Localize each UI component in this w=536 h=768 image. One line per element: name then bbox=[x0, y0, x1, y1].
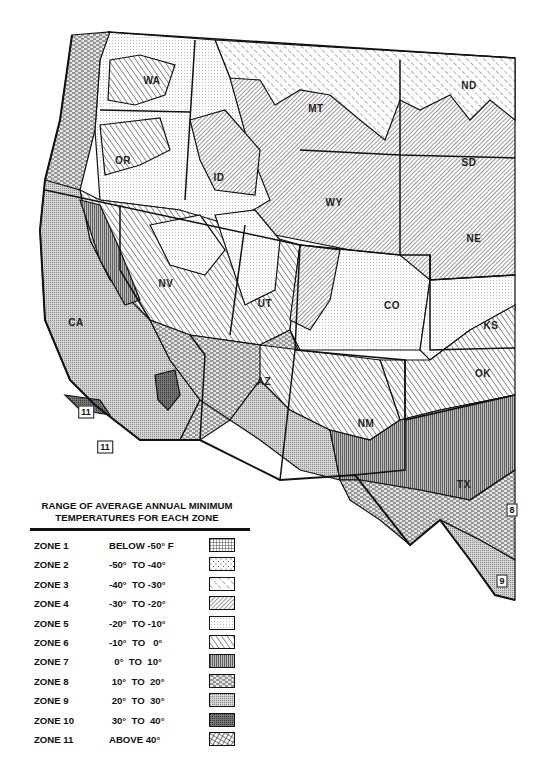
state-label-ok: OK bbox=[475, 368, 491, 379]
legend-row-zone-4: ZONE 4 -30° TO -20° bbox=[22, 595, 252, 614]
legend-row-zone-7: ZONE 7 0° TO 10° bbox=[22, 653, 252, 672]
zone-marker-8-texas: 8 bbox=[506, 504, 517, 517]
legend-zone-label: ZONE 8 bbox=[34, 676, 69, 687]
state-label-ks: KS bbox=[484, 320, 499, 331]
legend-row-zone-11: ZONE 11 ABOVE 40° bbox=[22, 731, 252, 750]
state-label-or: OR bbox=[115, 155, 131, 166]
legend-title-line1: RANGE OF AVERAGE ANNUAL MINIMUM bbox=[22, 500, 252, 512]
legend-zone-label: ZONE 3 bbox=[34, 579, 69, 590]
state-label-tx: TX bbox=[457, 479, 471, 490]
dense-crosshatch-swatch-icon bbox=[209, 713, 235, 727]
state-label-sd: SD bbox=[462, 157, 477, 168]
state-label-nm: NM bbox=[358, 418, 375, 429]
legend-row-zone-3: ZONE 3 -40° TO -30° bbox=[22, 576, 252, 595]
legend-row-zone-2: ZONE 2 -50° TO -40° bbox=[22, 556, 252, 575]
legend-row-zone-9: ZONE 9 20° TO 30° bbox=[22, 692, 252, 711]
legend-row-zone-8: ZONE 8 10° TO 20° bbox=[22, 673, 252, 692]
state-label-mt: MT bbox=[308, 103, 323, 114]
legend-row-zone-6: ZONE 6 -10° TO 0° bbox=[22, 634, 252, 653]
state-label-az: AZ bbox=[257, 376, 271, 387]
legend-zone-range: -30° TO -20° bbox=[109, 598, 166, 609]
legend-zone-label: ZONE 7 bbox=[34, 656, 69, 667]
dense-diagonal-swatch-icon bbox=[209, 596, 235, 610]
legend-zone-label: ZONE 9 bbox=[34, 695, 69, 706]
state-label-co: CO bbox=[384, 300, 400, 311]
legend-zone-range: 10° TO 20° bbox=[109, 676, 165, 687]
legend-zone-range: ABOVE 40° bbox=[109, 734, 160, 745]
legend-zone-label: ZONE 11 bbox=[34, 734, 73, 745]
legend-row-zone-1: ZONE 1 BELOW -50° F bbox=[22, 537, 252, 556]
legend-zone-label: ZONE 6 bbox=[34, 637, 69, 648]
back-diagonal-swatch-icon bbox=[209, 635, 235, 649]
state-label-ut: UT bbox=[258, 298, 272, 309]
state-label-nv: NV bbox=[159, 278, 174, 289]
fine-dots-swatch-icon bbox=[209, 616, 235, 630]
legend-zone-label: ZONE 2 bbox=[34, 559, 69, 570]
legend-zone-range: 0° TO 10° bbox=[109, 656, 162, 667]
legend-zone-label: ZONE 5 bbox=[34, 618, 69, 629]
zone-marker-11-san-diego: 11 bbox=[97, 441, 113, 454]
legend-divider bbox=[30, 528, 250, 531]
legend-title-line2: TEMPERATURES FOR EACH ZONE bbox=[22, 512, 252, 524]
state-label-ca: CA bbox=[68, 317, 83, 328]
stipple-swatch-icon bbox=[209, 693, 235, 707]
legend-zone-range: -50° TO -40° bbox=[109, 559, 166, 570]
legend-zone-range: 30° TO 40° bbox=[109, 715, 165, 726]
legend-zone-range: BELOW -50° F bbox=[109, 540, 174, 551]
diamond-crosshatch-swatch-icon bbox=[209, 732, 235, 746]
grid-pattern-swatch-icon bbox=[209, 538, 235, 552]
legend-zone-label: ZONE 1 bbox=[34, 540, 69, 551]
state-label-nd: ND bbox=[461, 80, 476, 91]
state-label-wa: WA bbox=[143, 75, 160, 86]
zone-marker-9-texas: 9 bbox=[496, 575, 507, 588]
legend-zone-range: -40° TO -30° bbox=[109, 579, 166, 590]
legend-row-zone-10: ZONE 10 30° TO 40° bbox=[22, 712, 252, 731]
legend-row-zone-5: ZONE 5 -20° TO -10° bbox=[22, 615, 252, 634]
dashes-swatch-icon bbox=[209, 674, 235, 688]
sparse-dots-swatch-icon bbox=[209, 557, 235, 571]
legend: RANGE OF AVERAGE ANNUAL MINIMUM TEMPERAT… bbox=[22, 500, 252, 750]
legend-zone-range: -10° TO 0° bbox=[109, 637, 162, 648]
sparse-diagonal-swatch-icon bbox=[209, 577, 235, 591]
legend-zone-range: 20° TO 30° bbox=[109, 695, 165, 706]
state-label-wy: WY bbox=[325, 197, 342, 208]
state-label-ne: NE bbox=[467, 233, 482, 244]
legend-zone-label: ZONE 10 bbox=[34, 715, 74, 726]
legend-zone-label: ZONE 4 bbox=[34, 598, 69, 609]
zone-marker-11-channel-islands: 11 bbox=[78, 406, 94, 419]
state-label-id: ID bbox=[214, 172, 225, 183]
vertical-lines-swatch-icon bbox=[209, 654, 235, 668]
legend-zone-range: -20° TO -10° bbox=[109, 618, 166, 629]
